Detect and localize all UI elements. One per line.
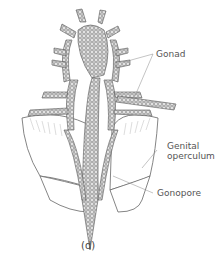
label-gonopore: Gonopore xyxy=(157,188,201,198)
label-genital: Genital xyxy=(167,141,199,151)
label-gonad: Gonad xyxy=(156,49,185,59)
diagram-canvas: Gonad Genital operculum Gonopore (d) xyxy=(0,0,224,264)
label-operculum: operculum xyxy=(167,151,215,161)
panel-label: (d) xyxy=(81,240,95,251)
gonad-illustration xyxy=(0,0,224,264)
